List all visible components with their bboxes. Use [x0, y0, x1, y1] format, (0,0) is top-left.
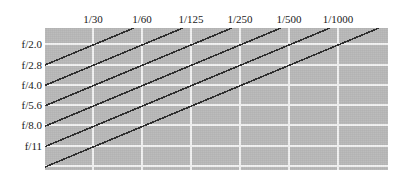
equal-exposure-line [45, 28, 134, 65]
equal-exposure-line-3 [45, 28, 232, 106]
equal-exposure-line-4 [45, 28, 281, 126]
equal-exposure-line [45, 28, 281, 126]
y-axis-tick-label: f/8.0 [0, 118, 42, 132]
chart-plot-svg [45, 28, 388, 170]
y-axis-tick-labels: f/2.0 f/2.8 f/4.0 f/5.6 f/8.0 f/11 [0, 0, 45, 183]
x-axis-tick-label: 1/1000 [303, 12, 373, 26]
exposure-chart-figure: 1/30 1/60 1/125 1/250 1/500 1/1000 f/2.0… [0, 0, 407, 183]
y-axis-tick-label: f/5.6 [0, 98, 42, 112]
x-axis-tick-labels: 1/30 1/60 1/125 1/250 1/500 1/1000 [0, 12, 407, 26]
equal-exposure-line [45, 28, 232, 106]
chart-plot-panel [45, 28, 388, 170]
y-axis-tick-label: f/11 [0, 139, 42, 153]
equal-exposure-line-1 [45, 28, 134, 65]
y-axis-tick-label: f/2.8 [0, 58, 42, 72]
y-axis-tick-label: f/2.0 [0, 37, 42, 51]
y-axis-tick-label: f/4.0 [0, 78, 42, 92]
